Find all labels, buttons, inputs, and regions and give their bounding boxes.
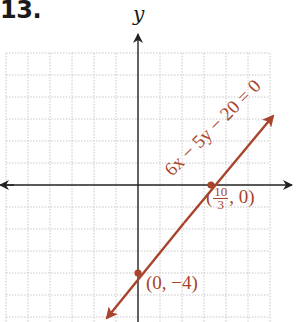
y-intercept-point <box>134 269 141 276</box>
fraction-denominator: 3 <box>213 199 228 211</box>
graph-line-lower <box>107 223 184 318</box>
x-intercept-rest: , 0) <box>229 186 254 207</box>
x-intercept-label: (103, 0) <box>206 186 255 211</box>
fraction: 103 <box>213 186 228 211</box>
paren-open: ( <box>206 186 212 207</box>
y-intercept-label: (0, −4) <box>146 272 198 294</box>
